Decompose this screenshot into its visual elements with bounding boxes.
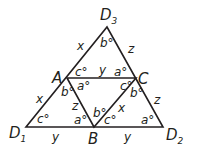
triangle-diagram: D3 A C D1 B D2 x z y x z x z y y b° c° a… xyxy=(0,0,197,152)
side-label-AC: y xyxy=(98,63,107,77)
angle-label-B-left: a° xyxy=(74,113,87,127)
angle-label-D2: a° xyxy=(141,113,154,127)
vertex-label-B: B xyxy=(88,130,98,148)
side-label-AB: z xyxy=(71,99,79,113)
angle-label-A-left: b° xyxy=(61,85,75,99)
side-label-CD2: z xyxy=(153,93,161,107)
side-label-D3C: z xyxy=(127,42,135,56)
vertex-label-D2: D2 xyxy=(166,126,184,146)
side-label-AD1: x xyxy=(35,92,44,106)
angle-label-B-right: c° xyxy=(104,113,117,127)
angle-label-C-right: b° xyxy=(130,86,144,100)
angle-label-D3: b° xyxy=(100,36,114,50)
vertex-label-D1: D1 xyxy=(9,124,26,144)
side-label-BC: x xyxy=(117,101,126,115)
vertex-label-D3: D3 xyxy=(100,6,118,26)
side-label-BD2: y xyxy=(123,130,132,144)
side-label-D1B: y xyxy=(51,130,60,144)
angle-label-A-mid: a° xyxy=(77,79,90,93)
side-label-D3A: x xyxy=(76,39,85,53)
angle-label-C-top: a° xyxy=(114,65,127,79)
angle-label-D1: c° xyxy=(37,112,50,126)
angle-label-A-top: c° xyxy=(75,65,88,79)
